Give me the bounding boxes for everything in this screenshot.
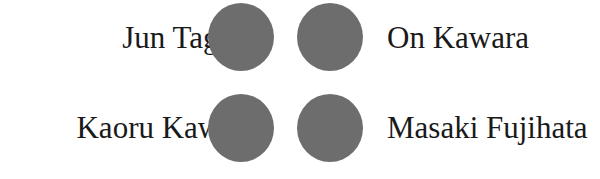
dot-masaki-fujihata <box>297 94 363 162</box>
label-on-kawara: On Kawara <box>387 22 529 53</box>
dot-kaoru-kawano <box>208 94 274 162</box>
dot-jun-tagami <box>208 3 274 71</box>
dot-on-kawara <box>297 3 363 71</box>
label-masaki-fujihata: Masaki Fujihata <box>387 112 588 143</box>
